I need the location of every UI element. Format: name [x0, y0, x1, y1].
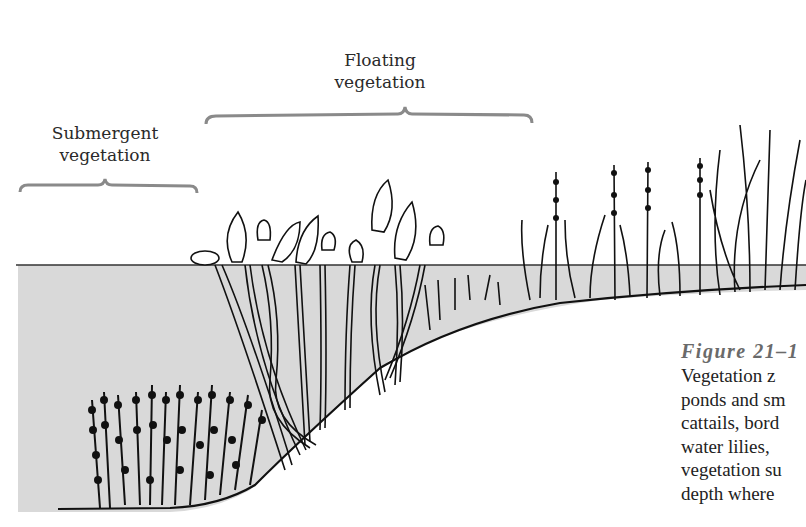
figure-label: Figure 21–1 — [681, 338, 806, 364]
caption-line-4: water lilies, — [681, 435, 806, 459]
submergent-zone-brace — [20, 179, 197, 193]
caption-line-2: ponds and sm — [681, 388, 806, 412]
caption-line-1: Vegetation z — [681, 364, 806, 388]
caption-line-3: cattails, bord — [681, 411, 806, 435]
caption-line-6: depth where — [681, 482, 806, 506]
caption-line-5: vegetation su — [681, 458, 806, 482]
emergent-flower-spikes — [553, 163, 703, 221]
floating-zone-brace — [206, 107, 532, 124]
floating-leaves — [191, 180, 444, 265]
figure-caption: Figure 21–1 Vegetation z ponds and sm ca… — [681, 338, 806, 505]
